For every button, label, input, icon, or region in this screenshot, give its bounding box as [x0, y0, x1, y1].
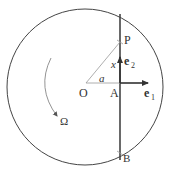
label-e1-subscript: 1 [151, 93, 155, 102]
label-e1-base: e [144, 86, 150, 100]
label-point-p: P [124, 33, 131, 47]
label-rotation-omega: Ω [60, 115, 68, 127]
label-origin-o: O [79, 86, 88, 100]
label-coordinate-x: x [110, 58, 116, 70]
label-point-a: A [110, 86, 119, 100]
rotation-arrow [45, 58, 57, 116]
rotating-disk-diagram: O A P B a x e 2 e 1 Ω [0, 0, 170, 172]
label-distance-a: a [99, 72, 105, 84]
label-e2-base: e [124, 54, 130, 68]
label-e2: e 2 [124, 54, 135, 70]
label-point-b: B [123, 152, 130, 164]
label-e1: e 1 [144, 86, 155, 102]
label-e2-subscript: 2 [131, 61, 135, 70]
